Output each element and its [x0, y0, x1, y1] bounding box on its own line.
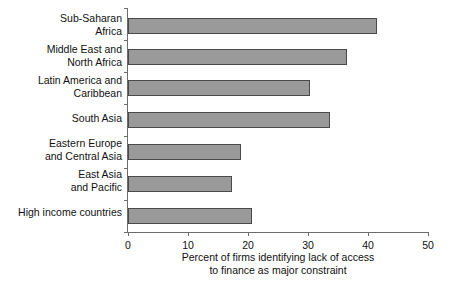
y-axis-tick [124, 168, 128, 169]
category-label: Sub-Saharan Africa [2, 12, 122, 37]
bar-chart: Sub-Saharan Africa Middle East and North… [0, 0, 454, 286]
x-axis-caption: Percent of firms identifying lack of acc… [128, 251, 428, 277]
bar [128, 208, 252, 224]
x-axis-tick-label: 30 [288, 239, 328, 251]
x-axis-tick [368, 232, 369, 236]
x-axis-caption-line-1: Percent of firms identifying lack of acc… [128, 251, 428, 264]
y-axis-tick [124, 72, 128, 73]
category-label: Eastern Europe and Central Asia [2, 137, 122, 162]
x-axis-tick [188, 232, 189, 236]
category-label: East Asia and Pacific [2, 168, 122, 193]
x-axis-tick-label: 20 [228, 239, 268, 251]
plot-area: 0 10 20 30 40 50 [128, 8, 428, 232]
x-axis-tick-label: 0 [108, 239, 148, 251]
x-axis-line [127, 232, 428, 233]
category-axis-labels: Sub-Saharan Africa Middle East and North… [0, 0, 125, 232]
y-axis-tick [124, 8, 128, 9]
category-label: Middle East and North Africa [2, 43, 122, 68]
x-axis-tick-label: 50 [408, 239, 448, 251]
x-axis-tick [428, 232, 429, 236]
category-label: South Asia [2, 112, 122, 125]
category-label: High income countries [2, 206, 122, 219]
category-label: Latin America and Caribbean [2, 74, 122, 99]
x-axis-caption-line-2: to finance as major constraint [128, 264, 428, 277]
y-axis-tick [124, 136, 128, 137]
y-axis-tick [124, 200, 128, 201]
bar [128, 112, 330, 128]
x-axis-tick [248, 232, 249, 236]
x-axis-tick-label: 40 [348, 239, 388, 251]
x-axis-tick [128, 232, 129, 236]
bar [128, 18, 377, 34]
bar [128, 49, 347, 65]
bar [128, 80, 310, 96]
y-axis-tick [124, 40, 128, 41]
bar [128, 176, 232, 192]
x-axis-tick-label: 10 [168, 239, 208, 251]
bar [128, 144, 241, 160]
y-axis-tick [124, 104, 128, 105]
x-axis-tick [308, 232, 309, 236]
